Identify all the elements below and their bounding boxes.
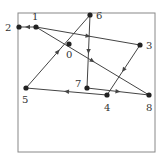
node-0 — [66, 41, 71, 46]
node-2 — [16, 24, 21, 29]
node-label-2: 2 — [5, 22, 11, 33]
node-3 — [137, 42, 142, 47]
node-label-7: 7 — [75, 78, 81, 89]
arrowhead-icon — [122, 67, 127, 72]
node-label-8: 8 — [146, 102, 152, 113]
arrowhead-icon — [86, 49, 90, 54]
node-label-4: 4 — [104, 102, 110, 113]
arrowhead-icon — [25, 25, 30, 29]
graph-canvas: 012345678 — [0, 0, 162, 160]
node-label-3: 3 — [146, 40, 152, 51]
node-7 — [84, 85, 89, 90]
node-label-0: 0 — [66, 49, 72, 60]
node-4 — [104, 92, 109, 97]
node-label-5: 5 — [22, 94, 28, 105]
node-label-6: 6 — [96, 10, 102, 21]
node-5 — [23, 85, 28, 90]
node-label-1: 1 — [32, 11, 38, 22]
node-8 — [146, 92, 151, 97]
node-1 — [33, 24, 38, 29]
label-layer: 012345678 — [5, 10, 152, 113]
node-6 — [87, 12, 92, 17]
